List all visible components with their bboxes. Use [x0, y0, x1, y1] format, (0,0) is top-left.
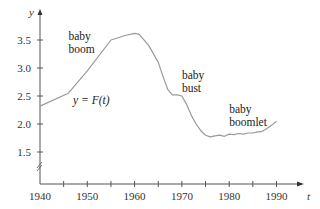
y-ticks: 1.52.02.53.03.5: [17, 34, 43, 158]
annotations: babyboombabybustbabyboomlety = F(t): [68, 30, 267, 128]
x-tick-label: 1990: [266, 190, 289, 202]
x-tick-label: 1960: [124, 190, 147, 202]
line-chart: y 1.52.02.53.03.5 t 19401950196019701980…: [0, 0, 320, 209]
y-axis-label: y: [28, 6, 34, 18]
y-tick-label: 3.5: [17, 34, 31, 46]
annotation: babyboomlet: [229, 103, 267, 128]
annotation: babyboom: [68, 30, 94, 55]
y-tick-label: 2.5: [17, 90, 31, 102]
y-tick-label: 1.5: [17, 146, 31, 158]
x-tick-label: 1940: [29, 190, 52, 202]
annotation: babybust: [182, 69, 205, 94]
x-tick-label: 1980: [218, 190, 241, 202]
x-tick-label: 1950: [76, 190, 99, 202]
x-tick-label: 1970: [171, 190, 194, 202]
y-tick-label: 2.0: [17, 118, 31, 130]
x-axis-label: t: [307, 190, 311, 202]
y-axis: y 1.52.02.53.03.5: [17, 6, 43, 184]
x-axis: t 194019501960197019801990: [29, 181, 311, 202]
y-tick-label: 3.0: [17, 62, 31, 74]
x-axis-arrow-icon: [297, 182, 304, 187]
annotation: y = F(t): [72, 94, 110, 107]
y-axis-arrow-icon: [38, 9, 43, 15]
